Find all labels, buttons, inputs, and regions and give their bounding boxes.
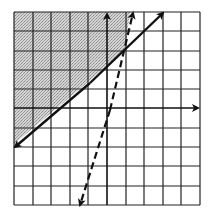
inequality-graph: [0, 0, 210, 217]
dashed-boundary-line-lower: [80, 110, 110, 205]
shaded-solution-region: [14, 12, 130, 144]
